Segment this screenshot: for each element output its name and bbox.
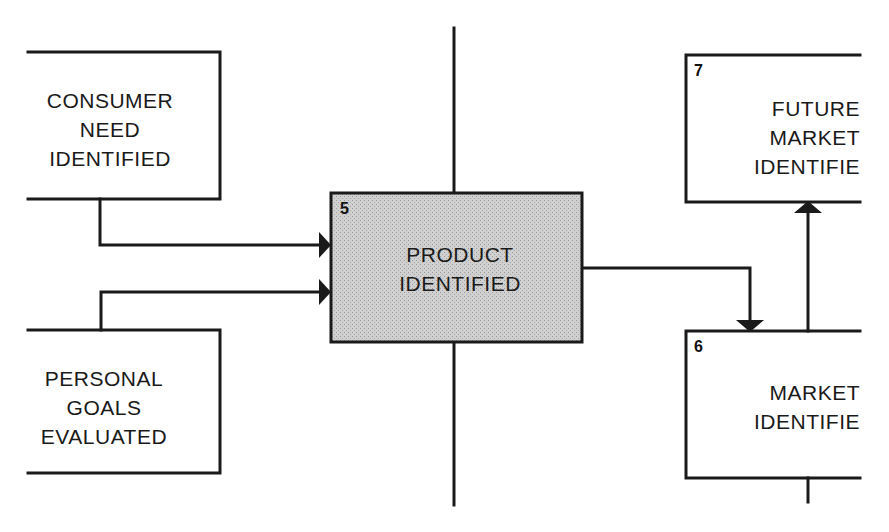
node-future-market-identified: FUTURE MARKET IDENTIFIE (700, 94, 860, 181)
node-text: GOALS (22, 393, 186, 422)
node-product-identified: PRODUCT IDENTIFIED (370, 240, 550, 298)
node-market-identified: MARKET IDENTIFIE (700, 378, 860, 436)
node-text: IDENTIFIED (30, 144, 190, 173)
node-number: 6 (694, 338, 703, 356)
node-number: 5 (340, 200, 349, 218)
node-text: PERSONAL (22, 364, 186, 393)
node-text: IDENTIFIE (700, 152, 860, 181)
connector-personal-product (101, 292, 322, 330)
node-text: PRODUCT (370, 240, 550, 269)
connector-product-market (582, 268, 750, 320)
node-text: MARKET (700, 123, 860, 152)
node-text: FUTURE (700, 94, 860, 123)
node-text: IDENTIFIED (370, 269, 550, 298)
node-text: CONSUMER (30, 86, 190, 115)
node-personal-goals-evaluated: PERSONAL GOALS EVALUATED (22, 364, 186, 451)
node-text: MARKET (700, 378, 860, 407)
arrowhead-right-icon (319, 279, 331, 305)
node-number: 7 (694, 62, 703, 80)
node-text: NEED (30, 115, 190, 144)
arrowhead-right-icon (319, 232, 331, 258)
node-consumer-need-identified: CONSUMER NEED IDENTIFIED (30, 86, 190, 173)
node-text: IDENTIFIE (700, 407, 860, 436)
node-text: EVALUATED (22, 422, 186, 451)
connector-consumer-product (100, 199, 322, 245)
flowchart-diagram: CONSUMER NEED IDENTIFIED PERSONAL GOALS … (0, 0, 889, 532)
